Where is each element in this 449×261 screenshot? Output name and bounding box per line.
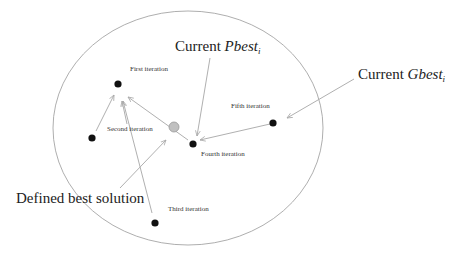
arrow-gbest-callout [287, 79, 354, 118]
dot-fifth-iteration [269, 119, 276, 126]
arrow-fifth-to-fourth [200, 124, 270, 140]
pbest-prefix: Current [175, 38, 225, 54]
label-second-iteration: Second iteration [107, 125, 153, 133]
pbest-symbol: Pbest [224, 38, 259, 54]
callout-current-gbest: Current Gbesti [358, 66, 446, 84]
dot-defined-best-solution [169, 122, 179, 132]
arrow-pbest-callout [197, 58, 210, 136]
label-fifth-iteration: Fifth iteration [231, 102, 270, 110]
callout-current-pbest: Current Pbesti [175, 38, 261, 56]
pso-iteration-diagram: First iteration Second iteration Third i… [0, 0, 449, 261]
dot-third-iteration [151, 219, 158, 226]
gbest-prefix: Current [358, 66, 408, 82]
pbest-subscript: i [258, 46, 261, 56]
gbest-symbol: Gbest [408, 66, 444, 82]
dot-fourth-iteration [189, 140, 196, 147]
label-third-iteration: Third iteration [168, 205, 209, 213]
callout-defined-best-solution: Defined best solution [16, 190, 145, 206]
dot-second-iteration [88, 134, 95, 141]
dot-first-iteration [114, 80, 121, 87]
arrow-defined-callout [120, 140, 166, 188]
label-fourth-iteration: Fourth iteration [201, 150, 245, 158]
label-first-iteration: First iteration [130, 65, 168, 73]
gbest-subscript: i [443, 74, 446, 84]
arrow-fourth-to-first [128, 97, 188, 140]
